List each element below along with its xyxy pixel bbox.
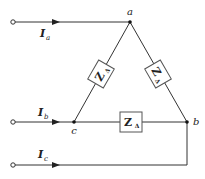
current-subscript-c: c	[44, 155, 48, 163]
terminal-a	[11, 20, 15, 24]
node-b	[185, 120, 189, 124]
impedance-box-ac: Z Δ	[88, 60, 115, 88]
delta-load-circuit: Z Δ Z Δ Z Δ a b c I a I b I c	[0, 0, 205, 179]
line-b	[11, 119, 74, 125]
node-label-b: b	[193, 116, 199, 127]
current-label-b: I	[37, 106, 44, 119]
current-label-c: I	[37, 148, 44, 161]
terminal-b	[11, 120, 15, 124]
current-label-a: I	[39, 27, 46, 40]
impedance-box-ab: Z Δ	[145, 60, 172, 88]
current-subscript-a: a	[46, 34, 50, 42]
arrow-icon	[52, 162, 60, 168]
line-c	[11, 122, 187, 168]
node-c	[72, 120, 76, 124]
arrow-icon	[52, 119, 60, 125]
terminal-c	[11, 163, 15, 167]
impedance-box-cb: Z Δ	[120, 112, 142, 132]
impedance-label: Z	[124, 116, 132, 129]
line-a	[11, 19, 130, 25]
impedance-subscript: Δ	[135, 122, 140, 129]
node-label-a: a	[127, 6, 133, 17]
node-a	[128, 20, 132, 24]
current-subscript-b: b	[44, 113, 49, 121]
node-label-c: c	[71, 125, 77, 136]
arrow-icon	[52, 19, 60, 25]
